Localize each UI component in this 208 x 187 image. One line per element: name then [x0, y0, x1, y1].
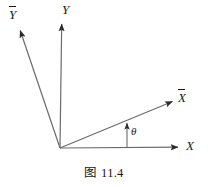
axis-line-y: [60, 24, 62, 148]
axis-label-y-text: Y: [62, 2, 69, 17]
axis-line-x: [60, 147, 178, 148]
axis-label-x-bar: X: [178, 89, 186, 104]
axis-label-x: X: [186, 139, 194, 152]
axis-line-x-bar: [60, 102, 173, 149]
coordinate-axes-drawing: [0, 0, 208, 187]
figure-container: Y Y X X θ 图 11.4: [0, 0, 208, 187]
angle-label-theta: θ: [131, 126, 136, 137]
axis-label-y-bar: Y: [9, 6, 16, 21]
axis-label-y: Y: [62, 3, 69, 16]
axis-line-y-bar: [20, 31, 60, 149]
axis-label-x-bar-text: X: [178, 89, 186, 104]
axis-label-x-text: X: [186, 138, 194, 153]
figure-caption: 图 11.4: [0, 162, 208, 181]
axis-label-y-bar-text: Y: [9, 6, 16, 21]
